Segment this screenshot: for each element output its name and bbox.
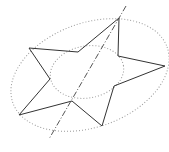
star-polygon [19,18,165,126]
outer-ellipse [0,0,169,152]
inner-ellipse [46,40,128,104]
symmetry-axis-line [49,6,126,139]
star-ellipse-diagram [0,0,169,152]
